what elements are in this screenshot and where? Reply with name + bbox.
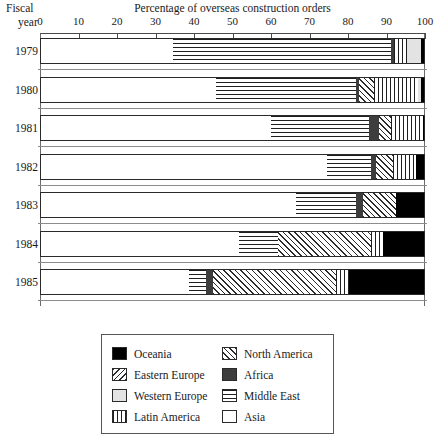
year-label: 1982: [4, 161, 38, 173]
bar-segment: [41, 155, 327, 179]
year-label: 1985: [4, 276, 38, 288]
year-label: 1983: [4, 199, 38, 211]
bar-segment: [379, 116, 391, 140]
bar-segment: [423, 116, 425, 140]
bar-segment: [394, 39, 407, 63]
legend-item[interactable]: North America: [222, 343, 313, 364]
year-label: 1984: [4, 238, 38, 250]
legend: OceaniaEastern EuropeWestern EuropeLatin…: [101, 334, 334, 434]
stacked-bar: [40, 154, 425, 180]
bar-segment: [239, 232, 278, 256]
bar-segment: [213, 270, 336, 294]
bar-segment: [421, 78, 425, 102]
bar-segment: [216, 78, 356, 102]
stacked-bar: [40, 231, 425, 257]
axis-tick-label: 70: [295, 15, 325, 27]
bar-segment: [421, 39, 425, 63]
axis-tick-label: 10: [64, 15, 94, 27]
bar-segment: [41, 116, 271, 140]
legend-label: Africa: [244, 369, 273, 381]
axis-tick-label: 60: [256, 15, 286, 27]
fiscal-label-line1: Fiscal: [6, 2, 33, 14]
axis-tick-label: 0: [25, 15, 55, 27]
bar-segment: [369, 116, 379, 140]
bar-segment: [41, 232, 239, 256]
bar-segment: [359, 78, 374, 102]
legend-swatch-icon: [112, 410, 127, 423]
bar-segment: [396, 193, 425, 217]
bar-segment: [356, 193, 363, 217]
bar-segment: [336, 270, 349, 294]
legend-swatch-icon: [112, 347, 127, 360]
row-separator: [38, 300, 427, 301]
bar-segment: [271, 116, 369, 140]
bar-segment: [349, 270, 425, 294]
year-label: 1981: [4, 122, 38, 134]
legend-swatch-icon: [222, 410, 237, 423]
legend-label: Middle East: [244, 390, 300, 402]
bar-segment: [41, 193, 296, 217]
bar-segment: [383, 232, 425, 256]
stacked-bar: [40, 269, 425, 295]
bar-segment: [393, 155, 416, 179]
legend-item[interactable]: Middle East: [222, 385, 313, 406]
axis-tick: [425, 33, 426, 39]
row-separator: [38, 262, 427, 263]
bar-segment: [363, 193, 396, 217]
stacked-bar: [40, 115, 425, 141]
bar-segment: [327, 155, 371, 179]
legend-swatch-icon: [112, 389, 127, 402]
row-separator: [38, 185, 427, 186]
axis-tick-label: 40: [179, 15, 209, 27]
legend-label: North America: [244, 348, 313, 360]
legend-item[interactable]: Africa: [222, 364, 313, 385]
legend-item[interactable]: Asia: [222, 406, 313, 427]
legend-label: Eastern Europe: [134, 369, 205, 381]
legend-item[interactable]: Latin America: [112, 406, 207, 427]
legend-column-2: North AmericaAfricaMiddle EastAsia: [222, 343, 313, 427]
bar-segment: [374, 78, 417, 102]
legend-label: Latin America: [134, 411, 200, 423]
year-label: 1980: [4, 84, 38, 96]
bar-segment: [391, 116, 423, 140]
bar-segment: [376, 155, 393, 179]
axis-tick-label: 100: [410, 15, 435, 27]
bar-segment: [41, 270, 189, 294]
row-separator: [38, 223, 427, 224]
axis-tick-label: 20: [102, 15, 132, 27]
bar-segment: [41, 78, 216, 102]
row-separator: [38, 69, 427, 70]
legend-item[interactable]: Western Europe: [112, 385, 207, 406]
chart-title: Percentage of overseas construction orde…: [40, 2, 425, 14]
legend-item[interactable]: Eastern Europe: [112, 364, 207, 385]
row-separator: [38, 146, 427, 147]
legend-column-1: OceaniaEastern EuropeWestern EuropeLatin…: [112, 343, 207, 427]
stacked-bar: [40, 192, 425, 218]
legend-item[interactable]: Oceania: [112, 343, 207, 364]
year-label: 1979: [4, 45, 38, 57]
legend-label: Asia: [244, 411, 265, 423]
legend-label: Western Europe: [134, 390, 207, 402]
legend-swatch-icon: [222, 368, 237, 381]
bar-segment: [296, 193, 356, 217]
bar-segment: [189, 270, 206, 294]
chart-root: Fiscal year Percentage of overseas const…: [0, 0, 435, 440]
legend-swatch-icon: [222, 389, 237, 402]
axis-tick-label: 90: [372, 15, 402, 27]
stacked-bar: [40, 38, 425, 64]
bar-segment: [416, 155, 425, 179]
axis-tick-label: 50: [218, 15, 248, 27]
bar-segment: [206, 270, 213, 294]
bar-segment: [278, 232, 371, 256]
bar-segment: [41, 39, 173, 63]
row-separator: [38, 108, 427, 109]
axis-tick-label: 30: [141, 15, 171, 27]
legend-swatch-icon: [222, 347, 237, 360]
bar-segment: [173, 39, 391, 63]
legend-label: Oceania: [134, 348, 172, 360]
bar-segment: [371, 232, 383, 256]
axis-tick-label: 80: [333, 15, 363, 27]
legend-swatch-icon: [112, 368, 127, 381]
bar-segment: [407, 39, 421, 63]
stacked-bar: [40, 77, 425, 103]
